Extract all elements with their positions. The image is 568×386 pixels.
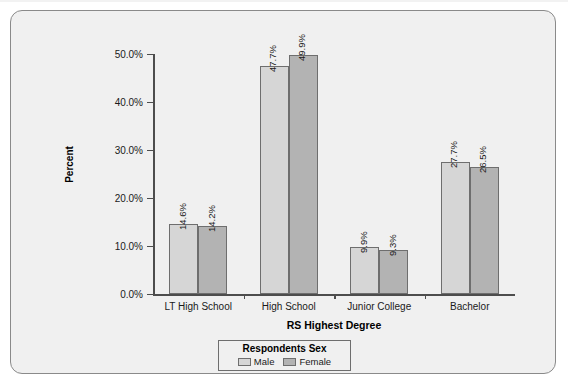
y-axis-line xyxy=(153,54,155,295)
bar-value-label: 27.7% xyxy=(449,141,459,168)
legend: Respondents Sex MaleFemale xyxy=(218,340,351,371)
bar-value-label: 9.9% xyxy=(359,231,369,253)
y-axis-tick-label: 10.0% xyxy=(87,242,143,252)
bar-value-label: 26.5% xyxy=(478,146,488,173)
x-axis-category-label: Junior College xyxy=(334,301,425,313)
chart-frame: Percent 0.0%10.0%20.0%30.0%40.0%50.0% 14… xyxy=(10,10,556,374)
bar-female-0[interactable] xyxy=(198,226,227,294)
legend-items: MaleFemale xyxy=(219,357,350,367)
legend-swatch-icon xyxy=(283,358,296,366)
bar-value-label: 14.6% xyxy=(178,203,188,230)
y-axis-tick-label: 40.0% xyxy=(87,98,143,108)
top-edge-artifact xyxy=(0,0,568,2)
legend-title: Respondents Sex xyxy=(219,343,350,355)
legend-item-label: Male xyxy=(254,357,275,367)
legend-item-label: Female xyxy=(299,357,331,367)
plot-area: Percent 0.0%10.0%20.0%30.0%40.0%50.0% 14… xyxy=(11,11,557,375)
y-axis-title: Percent xyxy=(64,135,75,195)
bar-female-2[interactable] xyxy=(379,250,408,295)
y-axis-tick-label: 20.0% xyxy=(87,194,143,204)
x-axis-title: RS Highest Degree xyxy=(153,319,515,331)
x-axis-category-label: Bachelor xyxy=(425,301,516,313)
bar-male-0[interactable] xyxy=(169,224,198,294)
y-axis-tick-label: 0.0% xyxy=(87,290,143,300)
x-axis-tick xyxy=(425,294,427,299)
legend-swatch-icon xyxy=(238,358,251,366)
y-axis-tick-label: 30.0% xyxy=(87,146,143,156)
x-axis-tick xyxy=(334,294,336,299)
bar-male-3[interactable] xyxy=(441,162,470,295)
x-axis-category-label: LT High School xyxy=(153,301,244,313)
x-axis-category-label: High School xyxy=(244,301,335,313)
bar-female-1[interactable] xyxy=(289,55,318,295)
bar-value-label: 47.7% xyxy=(268,45,278,72)
y-axis-tick-label: 50.0% xyxy=(87,50,143,60)
legend-item[interactable]: Male xyxy=(238,357,275,367)
legend-item[interactable]: Female xyxy=(283,357,331,367)
bar-value-label: 14.2% xyxy=(207,205,217,232)
bar-male-1[interactable] xyxy=(260,66,289,295)
bar-value-label: 9.3% xyxy=(388,234,398,256)
bar-value-label: 49.9% xyxy=(297,34,307,61)
bar-male-2[interactable] xyxy=(350,247,379,295)
bar-female-3[interactable] xyxy=(470,167,499,294)
x-axis-tick xyxy=(244,294,246,299)
